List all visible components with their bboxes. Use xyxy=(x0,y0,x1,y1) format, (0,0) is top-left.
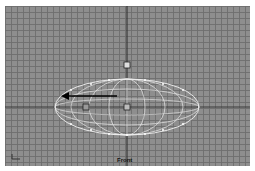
axis-tripod-icon xyxy=(11,154,21,160)
front-viewport[interactable] xyxy=(5,6,250,166)
scene-canvas[interactable] xyxy=(5,6,250,166)
viewport-label[interactable]: Front xyxy=(117,157,132,163)
center-handle[interactable] xyxy=(124,104,130,110)
top-handle[interactable] xyxy=(124,62,130,68)
left-handle[interactable] xyxy=(83,104,89,110)
